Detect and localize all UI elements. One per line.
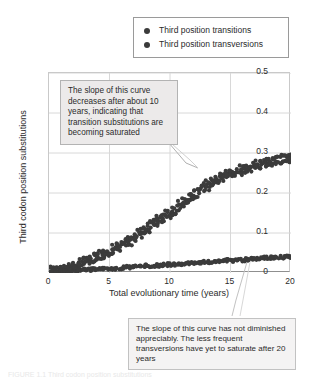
chart-legend: Third position transitions Third positio… (133, 17, 289, 58)
x-tick-label: 15 (225, 276, 234, 286)
figure-container: Third position transitions Third positio… (0, 0, 312, 383)
legend-marker-icon (144, 42, 150, 48)
x-tick-label: 5 (106, 276, 111, 286)
annotation-transversions: The slope of this curve has not diminish… (128, 318, 296, 370)
x-tick-label: 10 (164, 276, 173, 286)
x-tick-label: 0 (46, 276, 51, 286)
y-axis-label: Third codon position substitutions (18, 72, 28, 282)
x-tick-label: 20 (285, 276, 294, 286)
annotation-transitions: The slope of this curve decreases after … (60, 80, 178, 145)
legend-label-transversions: Third position transversions (159, 40, 263, 49)
x-axis-label: Total evolutionary time (years) (48, 288, 290, 298)
legend-item-transversions: Third position transversions (144, 38, 280, 51)
legend-marker-icon (144, 28, 150, 34)
legend-item-transitions: Third position transitions (144, 24, 280, 37)
legend-label-transitions: Third position transitions (159, 26, 251, 35)
figure-caption: FIGURE 1.1 Third codon position substitu… (8, 371, 308, 379)
